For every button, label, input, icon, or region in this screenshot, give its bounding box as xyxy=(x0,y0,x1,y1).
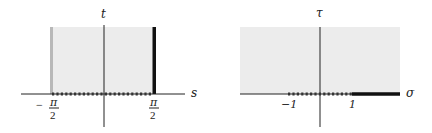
s-axis-label: s xyxy=(191,86,197,100)
left-panel: t s − π 2 π 2 xyxy=(21,7,197,127)
conformal-map-diagram: t s − π 2 π 2 τ σ −1 1 xyxy=(0,0,432,133)
tick-left-numerator: π xyxy=(49,96,58,109)
strip-left-edge xyxy=(50,27,53,94)
tick-minus-one: −1 xyxy=(281,98,297,111)
right-panel: τ σ −1 1 xyxy=(240,6,415,127)
tick-one: 1 xyxy=(349,98,356,111)
tick-left-sign: − xyxy=(36,98,43,112)
strip-region xyxy=(51,27,155,94)
tick-right-denominator: 2 xyxy=(150,109,156,121)
tick-left-denominator: 2 xyxy=(50,109,56,121)
strip-right-edge xyxy=(153,27,157,94)
t-axis-label: t xyxy=(101,7,106,21)
tau-axis-label: τ xyxy=(316,6,323,20)
sigma-axis-label: σ xyxy=(406,86,415,100)
tick-right-numerator: π xyxy=(149,96,158,109)
